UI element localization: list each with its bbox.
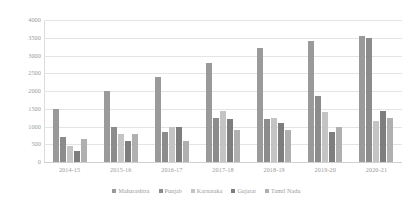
- chart-legend: MaharashtraPunjabKarnatakaGujaratTamil N…: [0, 188, 413, 194]
- bar[interactable]: [322, 112, 328, 162]
- bar[interactable]: [162, 132, 168, 162]
- bar[interactable]: [81, 139, 87, 162]
- bar[interactable]: [206, 63, 212, 162]
- x-axis-tick-label: 2018-19: [249, 167, 300, 179]
- legend-item[interactable]: Gujarat: [231, 188, 256, 194]
- bar-group-bars: [257, 20, 291, 162]
- legend-label: Punjab: [165, 188, 182, 194]
- bar[interactable]: [74, 151, 80, 162]
- bar[interactable]: [387, 118, 393, 162]
- bar-chart: 40003500300025002000150010005000 2014-15…: [0, 0, 413, 218]
- y-axis-tick-label: 1000: [1, 124, 41, 130]
- bar-group-bars: [359, 20, 393, 162]
- bar-group: [44, 20, 95, 162]
- legend-swatch-icon: [159, 189, 163, 193]
- bar-group-bars: [155, 20, 189, 162]
- bar[interactable]: [285, 130, 291, 162]
- legend-swatch-icon: [112, 189, 116, 193]
- bar-group-bars: [53, 20, 87, 162]
- bar[interactable]: [213, 118, 219, 162]
- x-axis-tick-label: 2016-17: [146, 167, 197, 179]
- bar[interactable]: [60, 137, 66, 162]
- axis-baseline: [44, 162, 402, 163]
- y-axis-tick-label: 3000: [1, 53, 41, 59]
- legend-swatch-icon: [265, 189, 269, 193]
- bar[interactable]: [308, 41, 314, 162]
- legend-label: Tamil Nadu: [271, 188, 300, 194]
- bar-group: [197, 20, 248, 162]
- bar[interactable]: [380, 111, 386, 162]
- legend-item[interactable]: Karnataka: [191, 188, 223, 194]
- x-axis-tick-label: 2020-21: [351, 167, 402, 179]
- legend-label: Gujarat: [237, 188, 256, 194]
- bar[interactable]: [176, 127, 182, 163]
- y-axis-tick-label: 500: [1, 141, 41, 147]
- y-axis-tick-label: 2500: [1, 70, 41, 76]
- bar-group: [300, 20, 351, 162]
- legend-swatch-icon: [231, 189, 235, 193]
- legend-label: Maharashtra: [118, 188, 149, 194]
- bar[interactable]: [118, 134, 124, 162]
- bar-group-bars: [104, 20, 138, 162]
- bar[interactable]: [366, 38, 372, 162]
- bar[interactable]: [183, 141, 189, 162]
- bar-groups: [44, 20, 402, 162]
- bar-group-bars: [308, 20, 342, 162]
- bar[interactable]: [227, 119, 233, 162]
- x-axis-tick-label: 2014-15: [44, 167, 95, 179]
- bar[interactable]: [67, 146, 73, 162]
- y-axis-tick-labels: 40003500300025002000150010005000: [0, 20, 41, 162]
- bar[interactable]: [155, 77, 161, 162]
- bar-group: [249, 20, 300, 162]
- plot-area: [44, 20, 402, 162]
- bar[interactable]: [53, 109, 59, 162]
- x-axis-tick-label: 2015-16: [95, 167, 146, 179]
- x-axis-tick-label: 2017-18: [197, 167, 248, 179]
- y-axis-tick-label: 3500: [1, 35, 41, 41]
- legend-item[interactable]: Tamil Nadu: [265, 188, 300, 194]
- bar[interactable]: [169, 127, 175, 163]
- y-axis-tick-label: 2000: [1, 88, 41, 94]
- bar[interactable]: [336, 127, 342, 163]
- legend-label: Karnataka: [197, 188, 223, 194]
- y-axis-tick-label: 1500: [1, 106, 41, 112]
- bar-group: [95, 20, 146, 162]
- bar[interactable]: [220, 111, 226, 162]
- bar[interactable]: [359, 36, 365, 162]
- bar[interactable]: [111, 127, 117, 163]
- bar[interactable]: [234, 130, 240, 162]
- bar[interactable]: [125, 141, 131, 162]
- y-axis-tick-label: 4000: [1, 17, 41, 23]
- bar[interactable]: [264, 119, 270, 162]
- bar[interactable]: [104, 91, 110, 162]
- y-axis-tick-label: 0: [1, 159, 41, 165]
- bar[interactable]: [132, 134, 138, 162]
- legend-item[interactable]: Maharashtra: [112, 188, 149, 194]
- x-axis-tick-labels: 2014-152015-162016-172017-182018-192019-…: [44, 167, 402, 179]
- bar-group-bars: [206, 20, 240, 162]
- bar[interactable]: [315, 96, 321, 162]
- bar-group: [351, 20, 402, 162]
- legend-swatch-icon: [191, 189, 195, 193]
- bar-group: [146, 20, 197, 162]
- bar[interactable]: [329, 132, 335, 162]
- bar[interactable]: [257, 48, 263, 162]
- x-axis-tick-label: 2019-20: [300, 167, 351, 179]
- bar[interactable]: [278, 123, 284, 162]
- bar[interactable]: [373, 121, 379, 162]
- bar[interactable]: [271, 118, 277, 162]
- legend-item[interactable]: Punjab: [159, 188, 182, 194]
